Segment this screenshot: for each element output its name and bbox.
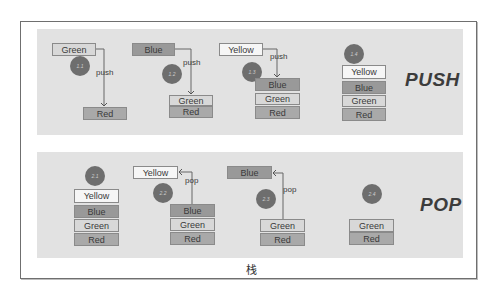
stack-item-red: Red <box>170 232 215 245</box>
stack-item-red: Red <box>342 108 386 121</box>
stack-item-red: Red <box>349 232 394 245</box>
stack-item-blue: Blue <box>74 205 119 218</box>
pop-label: pop <box>185 176 198 185</box>
stack-item-green: Green <box>255 93 300 105</box>
step-badge: 2.3 <box>256 189 276 209</box>
stack-item-green: Green <box>169 95 213 106</box>
stack-item-red: Red <box>260 233 305 246</box>
push-title: PUSH <box>405 69 460 91</box>
stack-item-blue: Blue <box>170 204 215 217</box>
step-badge: 1.1 <box>70 56 90 76</box>
step-badge: 1.4 <box>344 44 364 64</box>
outgoing-item-yellow: Yellow <box>133 166 178 179</box>
stack-item-red: Red <box>83 107 127 120</box>
push-label: push <box>183 58 200 67</box>
stack-item-green: Green <box>170 218 215 231</box>
stack-item-green: Green <box>260 219 305 232</box>
step-badge: 2.2 <box>153 183 173 203</box>
step-badge: 2.1 <box>85 166 105 186</box>
stack-item-blue: Blue <box>342 81 386 94</box>
stack-item-green: Green <box>74 219 119 232</box>
stack-item-red: Red <box>169 106 213 118</box>
outgoing-item-blue: Blue <box>227 166 272 179</box>
figure-caption: 栈 <box>246 261 257 277</box>
stack-item-green: Green <box>342 95 386 107</box>
incoming-item-yellow: Yellow <box>219 43 263 56</box>
stack-item-yellow: Yellow <box>342 65 386 79</box>
step-badge: 2.4 <box>362 184 382 204</box>
step-badge: 1.2 <box>162 64 182 84</box>
incoming-item-blue: Blue <box>132 43 175 56</box>
stack-item-yellow: Yellow <box>74 189 119 203</box>
stack-item-blue: Blue <box>255 78 300 91</box>
pop-label: pop <box>283 185 296 194</box>
incoming-item-green: Green <box>52 43 96 56</box>
stack-item-green: Green <box>349 219 394 232</box>
push-label: push <box>270 52 287 61</box>
push-label: push <box>96 68 113 77</box>
stack-item-red: Red <box>74 233 119 246</box>
pop-title: POP <box>420 194 462 216</box>
stack-item-red: Red <box>255 106 300 119</box>
